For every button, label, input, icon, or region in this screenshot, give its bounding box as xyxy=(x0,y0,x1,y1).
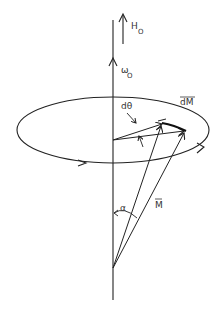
delta-m-vector xyxy=(162,123,186,131)
field-label: H xyxy=(131,21,138,31)
orbit-arrow-right-icon xyxy=(197,143,204,153)
magnetization-label: M xyxy=(155,200,163,210)
dtheta-pointer-1 xyxy=(127,113,136,123)
magnetization-vector-1 xyxy=(113,126,161,268)
field-label-subscript: O xyxy=(138,28,144,36)
radius-vector-2 xyxy=(113,131,184,140)
precession-diagram: H O ω O dM dθ M α xyxy=(0,0,224,315)
delta-m-label: dM xyxy=(180,97,193,107)
radius-vector-1 xyxy=(113,124,162,140)
dtheta-pointer-2 xyxy=(139,136,143,147)
alpha-label: α xyxy=(120,203,126,213)
field-arrow xyxy=(119,14,127,44)
dtheta-label: dθ xyxy=(121,101,133,111)
magnetization-vector-2 xyxy=(113,133,184,268)
frequency-label-subscript: O xyxy=(127,72,133,80)
